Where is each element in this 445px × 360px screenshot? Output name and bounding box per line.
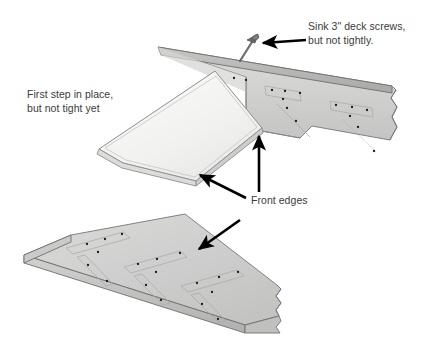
deck-screw [240, 34, 260, 61]
callout-front-edges: Front edges [251, 194, 308, 208]
callout-first-step: First step in place, but not tight yet [27, 88, 113, 115]
stair-assembly-illustration [0, 0, 445, 360]
callout-sink-screws: Sink 3" deck screws, but not tightly. [308, 20, 406, 47]
figure-canvas: Sink 3" deck screws, but not tightly. Fi… [0, 0, 445, 360]
screw-shank-highlight [241, 43, 252, 60]
arrow-to-step-edge [200, 175, 246, 198]
lower-stringer-board [24, 214, 281, 333]
arrow-to-screw [263, 40, 306, 43]
